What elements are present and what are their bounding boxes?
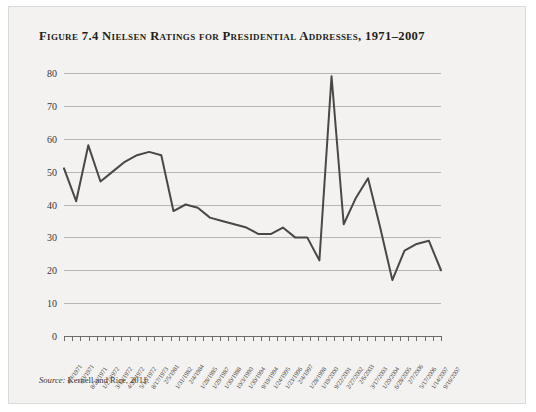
x-axis-tick (228, 336, 229, 341)
x-axis-tick (400, 336, 401, 341)
y-tick-label-10: 10 (47, 298, 57, 309)
x-axis-tick (384, 336, 385, 341)
source-text: Kernell and Rice, 2011. (65, 375, 149, 385)
x-axis-tick (64, 336, 65, 341)
y-tick-label-30: 30 (47, 232, 57, 243)
x-axis-tick (261, 336, 262, 341)
x-axis-tick (367, 336, 368, 341)
x-axis-tick (80, 336, 81, 341)
x-axis-tick (326, 336, 327, 341)
y-tick-label-50: 50 (47, 166, 57, 177)
x-axis-tick (269, 336, 270, 341)
x-axis-tick (310, 336, 311, 341)
x-axis-tick (425, 336, 426, 341)
x-axis-tick (220, 336, 221, 341)
source-note: Source: Kernell and Rice, 2011. (39, 375, 149, 385)
chart-plot-area: 01020304050607080 4/7/19715/3/19718/22/1… (64, 73, 441, 336)
x-axis-tick (334, 336, 335, 341)
x-axis-tick (416, 336, 417, 341)
x-axis-tick (89, 336, 90, 341)
nielsen-rating-line (64, 76, 441, 280)
y-tick-label-70: 70 (47, 100, 57, 111)
x-axis-tick (244, 336, 245, 341)
y-tick-label-80: 80 (47, 68, 57, 79)
x-axis-tick (318, 336, 319, 341)
x-axis-tick (179, 336, 180, 341)
x-axis-tick (433, 336, 434, 341)
x-axis-tick (154, 336, 155, 341)
x-axis-tick (285, 336, 286, 341)
x-axis-tick (105, 336, 106, 341)
x-axis-tick (277, 336, 278, 341)
x-axis-tick (146, 336, 147, 341)
x-axis-tick (302, 336, 303, 341)
x-axis-tick (351, 336, 352, 341)
x-axis-tick (343, 336, 344, 341)
x-axis-tick (72, 336, 73, 341)
x-axis-tick (392, 336, 393, 341)
x-axis-tick (236, 336, 237, 341)
x-axis-tick (359, 336, 360, 341)
x-axis-tick (441, 336, 442, 341)
x-axis-tick (138, 336, 139, 341)
x-axis-tick (253, 336, 254, 341)
x-axis-tick (408, 336, 409, 341)
y-tick-label-0: 0 (52, 331, 57, 342)
source-label: Source: (39, 375, 65, 385)
y-tick-label-40: 40 (47, 199, 57, 210)
x-axis-tick (203, 336, 204, 341)
x-axis-tick (97, 336, 98, 341)
x-axis-tick (212, 336, 213, 341)
x-axis-tick (187, 336, 188, 341)
figure-title: Figure 7.4 Nielsen Ratings for President… (39, 29, 499, 44)
x-axis-tick (293, 336, 294, 341)
y-tick-label-20: 20 (47, 265, 57, 276)
x-axis-tick (113, 336, 114, 341)
x-axis-tick (375, 336, 376, 341)
x-axis-tick (130, 336, 131, 341)
x-axis-tick (171, 336, 172, 341)
x-axis-tick (121, 336, 122, 341)
line-series-svg (64, 73, 441, 336)
x-axis-tick (195, 336, 196, 341)
y-tick-label-60: 60 (47, 133, 57, 144)
figure-page: Figure 7.4 Nielsen Ratings for President… (8, 6, 526, 404)
x-axis-tick (162, 336, 163, 341)
